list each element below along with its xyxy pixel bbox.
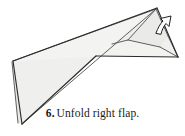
caption-step-text: Unfold right flap. (57, 107, 140, 119)
figure-caption: 6.Unfold right flap. (0, 107, 185, 119)
caption-step-number: 6. (46, 107, 55, 119)
figure-page: 6.Unfold right flap. (0, 0, 185, 136)
